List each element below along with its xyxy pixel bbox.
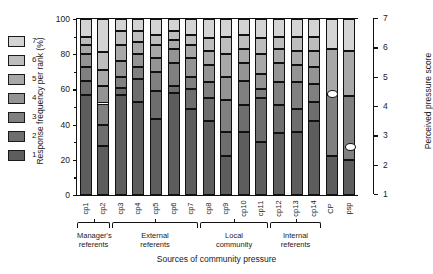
bar-segment bbox=[309, 51, 319, 67]
bar-segment bbox=[98, 19, 108, 52]
bar-segment bbox=[133, 79, 143, 102]
group-label-line2: referents bbox=[77, 240, 110, 249]
y-axis-left-minor-tick bbox=[74, 72, 77, 73]
bar-segment bbox=[221, 100, 231, 132]
legend-swatch bbox=[8, 74, 25, 85]
bar-segment bbox=[186, 109, 196, 195]
stacked-bar[interactable] bbox=[115, 19, 127, 195]
bar-segment bbox=[221, 54, 231, 77]
bar-segment bbox=[151, 45, 161, 57]
bar-segment bbox=[344, 19, 354, 51]
x-axis-title: Sources of community pressure bbox=[76, 254, 357, 264]
stacked-bar[interactable] bbox=[132, 19, 144, 195]
bar-segment bbox=[256, 89, 266, 98]
bar-segment bbox=[81, 37, 91, 46]
legend-swatch bbox=[8, 93, 25, 104]
stacked-bar[interactable] bbox=[168, 19, 180, 195]
y-axis-left-tick: 20 bbox=[33, 155, 77, 165]
stacked-bar[interactable] bbox=[255, 19, 267, 195]
group-bracket: Externalreferents bbox=[112, 222, 198, 249]
stacked-bar[interactable] bbox=[220, 19, 232, 195]
brace-icon bbox=[112, 222, 198, 228]
x-axis-tick-label: cp8 bbox=[203, 202, 212, 214]
bar-segment bbox=[133, 42, 143, 54]
group-label-line1: Internal bbox=[270, 231, 321, 240]
legend-swatch bbox=[8, 150, 25, 161]
bar-slot bbox=[270, 19, 288, 195]
bar-slot bbox=[340, 19, 358, 195]
bar-segment bbox=[186, 89, 196, 108]
bar-slot bbox=[253, 19, 271, 195]
bar-segment bbox=[274, 19, 284, 37]
bar-segment bbox=[204, 82, 214, 98]
y-axis-left-minor-tick bbox=[74, 142, 77, 143]
stacked-bar[interactable] bbox=[97, 19, 109, 195]
bar-segment bbox=[186, 45, 196, 57]
bar-segment bbox=[81, 54, 91, 66]
y-axis-right-tick: 4 bbox=[374, 101, 414, 111]
bar-segment bbox=[186, 19, 196, 35]
bar-segment bbox=[309, 84, 319, 102]
bar-segment bbox=[204, 51, 214, 65]
bar-segment bbox=[292, 109, 302, 132]
stacked-bar[interactable] bbox=[343, 19, 355, 195]
bar-segment bbox=[327, 95, 337, 157]
y-axis-right-tick: 6 bbox=[374, 42, 414, 52]
x-axis-tick-label: cp3 bbox=[115, 202, 124, 214]
x-axis-tick-label: cp14 bbox=[309, 200, 318, 216]
bar-segment bbox=[169, 40, 179, 49]
bar-segment bbox=[151, 35, 161, 46]
bar-segment bbox=[116, 61, 126, 77]
y-axis-left-tick: 40 bbox=[33, 120, 77, 130]
x-axis-tick-label: cp9 bbox=[221, 202, 230, 214]
bar-segment bbox=[309, 19, 319, 37]
bar-segment bbox=[116, 45, 126, 61]
bar-segment bbox=[169, 19, 179, 31]
bar-segment bbox=[169, 63, 179, 86]
bar-segment bbox=[309, 37, 319, 51]
y-axis-left-tick: 60 bbox=[33, 84, 77, 94]
legend-swatch bbox=[8, 112, 25, 123]
y-axis-left-tick: 0 bbox=[33, 190, 77, 200]
y-axis-left-tick: 80 bbox=[33, 49, 77, 59]
y-axis-left-minor-tick bbox=[74, 177, 77, 178]
bar-segment bbox=[221, 156, 231, 195]
bar-segment bbox=[98, 86, 108, 104]
group-bracket: Manager'sreferents bbox=[77, 222, 110, 249]
y-axis-right-tick: 2 bbox=[374, 160, 414, 170]
brace-icon bbox=[200, 222, 268, 228]
stacked-bar[interactable] bbox=[80, 19, 92, 195]
legend-item: 7 bbox=[8, 32, 52, 50]
stacked-bar[interactable] bbox=[273, 19, 285, 195]
x-axis-tick-label: cp5 bbox=[151, 202, 160, 214]
bar-segment bbox=[133, 67, 143, 79]
bar-segment bbox=[256, 74, 266, 90]
bar-segment bbox=[239, 49, 249, 63]
stacked-bar[interactable] bbox=[203, 19, 215, 195]
bar-segment bbox=[151, 58, 161, 72]
bar-segment bbox=[309, 102, 319, 121]
bar-segment bbox=[204, 19, 214, 38]
bar-segment bbox=[133, 54, 143, 66]
group-label-line1: Local bbox=[200, 231, 268, 240]
bar-slot bbox=[323, 19, 341, 195]
bar-segment bbox=[327, 49, 337, 95]
group-label-line1: Manager's bbox=[77, 231, 110, 240]
bar-segment bbox=[239, 105, 249, 131]
bar-slot bbox=[288, 19, 306, 195]
bar-segment bbox=[204, 98, 214, 121]
stacked-bar[interactable] bbox=[291, 19, 303, 195]
stacked-bar[interactable] bbox=[150, 19, 162, 195]
bar-segment bbox=[274, 82, 284, 105]
bar-segment bbox=[256, 54, 266, 73]
bar-segment bbox=[151, 19, 161, 35]
stacked-bar[interactable] bbox=[326, 19, 338, 195]
stacked-bar[interactable] bbox=[308, 19, 320, 195]
mean-score-marker bbox=[327, 90, 338, 98]
bar-slot bbox=[112, 19, 130, 195]
bar-segment bbox=[116, 88, 126, 95]
bar-segment bbox=[327, 19, 337, 49]
stacked-bar[interactable] bbox=[238, 19, 250, 195]
stacked-bar[interactable] bbox=[185, 19, 197, 195]
y-axis-left-tick: 100 bbox=[33, 14, 77, 24]
